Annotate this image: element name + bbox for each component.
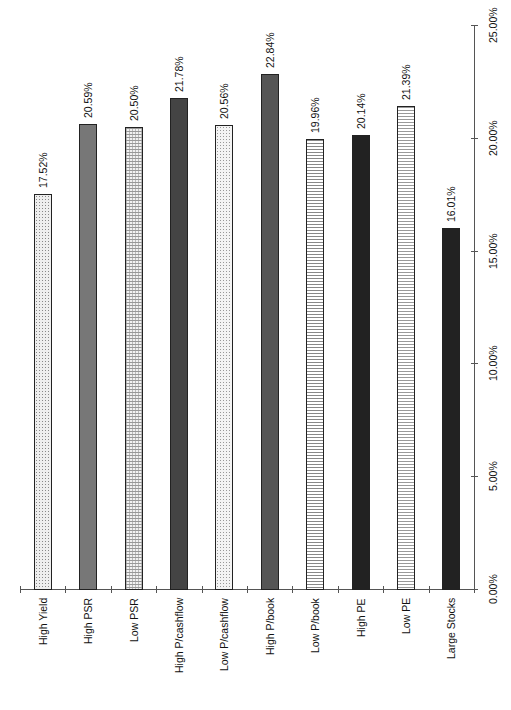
category-label: Low P/book — [309, 598, 321, 653]
bar-large-stocks — [442, 228, 460, 590]
category-label: High P/cashflow — [173, 598, 185, 673]
bar-low-p-cashflow — [215, 125, 233, 590]
bar-high-psr — [79, 124, 97, 590]
value-tick — [471, 363, 478, 364]
bar-high-p-book — [261, 74, 279, 590]
value-tick-label: 15.00% — [487, 233, 499, 269]
bar-value-label: 20.59% — [82, 83, 94, 119]
value-tick-label: 5.00% — [487, 461, 499, 491]
value-axis-line — [474, 25, 475, 590]
bar-value-label: 21.39% — [400, 65, 412, 101]
value-tick — [471, 476, 478, 477]
category-tick — [429, 586, 430, 593]
category-label: High Yield — [37, 598, 49, 645]
bar-value-label: 19.96% — [309, 97, 321, 133]
category-tick — [20, 586, 21, 593]
bar-low-pe — [397, 106, 415, 590]
value-tick-label: 25.00% — [487, 7, 499, 43]
bar-value-label: 20.56% — [218, 84, 230, 120]
category-tick — [65, 586, 66, 593]
bar-low-psr — [125, 127, 143, 590]
category-label: Large Stocks — [445, 598, 457, 659]
bar-high-pe — [352, 135, 370, 590]
bar-chart: 0.00%5.00%10.00%15.00%20.00%25.00%17.52%… — [0, 0, 511, 710]
value-tick-label: 0.00% — [487, 574, 499, 604]
category-tick — [383, 586, 384, 593]
bar-low-p-book — [306, 139, 324, 590]
value-tick — [471, 138, 478, 139]
category-label: High PE — [355, 598, 367, 637]
category-tick — [156, 586, 157, 593]
value-tick-label: 10.00% — [487, 346, 499, 382]
category-label: Low P/cashflow — [218, 598, 230, 671]
bar-value-label: 16.01% — [445, 186, 457, 222]
bar-value-label: 20.14% — [355, 93, 367, 129]
category-label: Low PE — [400, 598, 412, 634]
category-tick — [338, 586, 339, 593]
bar-value-label: 20.50% — [128, 85, 140, 121]
bar-value-label: 21.78% — [173, 56, 185, 92]
bar-high-yield — [34, 194, 52, 590]
bar-value-label: 22.84% — [264, 32, 276, 68]
bar-value-label: 17.52% — [37, 152, 49, 188]
category-tick — [247, 586, 248, 593]
category-label: Low PSR — [128, 598, 140, 642]
category-tick — [292, 586, 293, 593]
bar-high-p-cashflow — [170, 98, 188, 590]
value-tick-label: 20.00% — [487, 120, 499, 156]
value-tick — [471, 251, 478, 252]
category-label: High P/book — [264, 598, 276, 655]
category-tick — [111, 586, 112, 593]
value-tick — [471, 25, 478, 26]
category-tick — [202, 586, 203, 593]
category-label: High PSR — [82, 598, 94, 644]
value-tick — [471, 589, 478, 590]
